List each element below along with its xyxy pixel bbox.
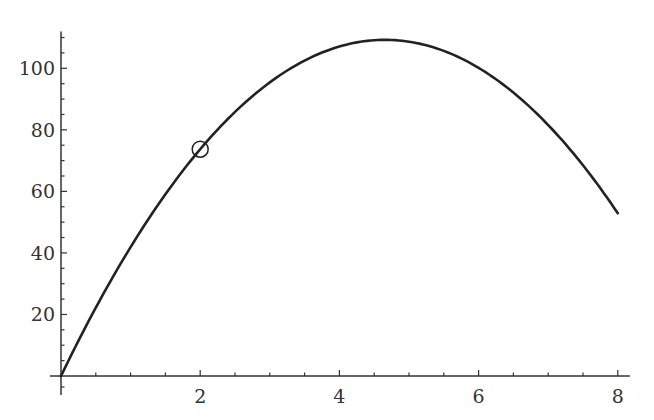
y-tick-label: 20	[31, 303, 55, 325]
x-tick-label: 6	[473, 385, 485, 407]
y-tick-label: 100	[19, 57, 55, 79]
y-tick-label: 80	[31, 119, 55, 141]
y-tick-label: 40	[31, 242, 55, 264]
data-curve	[61, 40, 618, 376]
x-tick-label: 4	[333, 385, 345, 407]
y-tick-label: 60	[31, 180, 55, 202]
x-tick-label: 8	[612, 385, 624, 407]
x-axis: 2468	[50, 370, 630, 407]
y-axis: 20406080100	[19, 31, 67, 395]
x-tick-label: 2	[194, 385, 206, 407]
chart: 20406080100 2468	[0, 0, 654, 420]
